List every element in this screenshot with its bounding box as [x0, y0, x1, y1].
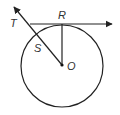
label-R: R — [58, 9, 66, 21]
label-S: S — [34, 42, 42, 54]
label-T: T — [10, 17, 18, 29]
center-point-O — [60, 63, 63, 66]
ray-OT — [14, 7, 62, 65]
label-O: O — [67, 60, 76, 72]
geometry-diagram: T R S O — [0, 0, 120, 115]
